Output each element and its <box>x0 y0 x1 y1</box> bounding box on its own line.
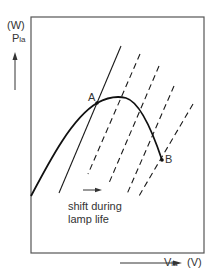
y-unit-label: (W) <box>7 20 25 31</box>
point-b-marker <box>160 158 164 162</box>
dashed-load-line-4 <box>139 104 193 196</box>
y-axis-label: Pla <box>12 33 26 44</box>
plot-frame <box>31 17 204 253</box>
point-a-marker <box>95 101 99 105</box>
point-a-label: A <box>88 92 95 103</box>
x-label-sub: la <box>171 259 177 268</box>
diagram-canvas <box>0 0 216 274</box>
power-curve <box>31 97 162 196</box>
point-b-label: B <box>165 154 172 165</box>
y-axis-arrow <box>13 52 18 90</box>
shift-arrow <box>83 188 102 192</box>
annotation-line-2: lamp life <box>68 214 109 225</box>
y-label-sub: la <box>19 35 25 44</box>
x-unit-label: (V) <box>187 257 202 268</box>
dashed-load-line-1 <box>88 54 140 174</box>
annotation-line-1: shift during <box>68 201 122 212</box>
dashed-load-line-2 <box>109 66 159 183</box>
x-axis-label: Vla <box>164 257 178 268</box>
